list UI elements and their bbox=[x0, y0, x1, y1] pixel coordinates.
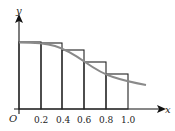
origin-label: O bbox=[9, 113, 17, 124]
rectangle-1 bbox=[19, 42, 41, 109]
axes bbox=[14, 14, 166, 114]
x-tick-label: 0.6 bbox=[77, 115, 92, 125]
x-tick-label: 1.0 bbox=[121, 115, 136, 125]
function-curve bbox=[19, 43, 146, 86]
x-axis-label: x bbox=[165, 104, 171, 115]
rectangle-2 bbox=[41, 43, 62, 109]
y-axis-label: y bbox=[15, 5, 22, 16]
x-tick-label: 0.2 bbox=[34, 115, 48, 125]
x-tick-labels: 0.2 0.4 0.6 0.8 1.0 bbox=[34, 115, 136, 125]
x-tick-label: 0.4 bbox=[56, 115, 71, 125]
x-tick-label: 0.8 bbox=[99, 115, 114, 125]
riemann-rectangles bbox=[19, 42, 128, 109]
riemann-sum-diagram: y x O 0.2 0.4 0.6 0.8 1.0 bbox=[0, 0, 175, 131]
